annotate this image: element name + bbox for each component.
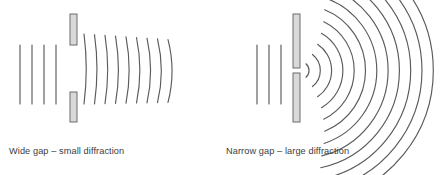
barrier-upper-bar <box>70 14 77 45</box>
barrier-wide-gap <box>70 14 77 122</box>
panel-wide-gap <box>20 14 172 122</box>
caption-wide-gap: Wide gap – small diffraction <box>9 146 124 156</box>
wavefront-arc-2 <box>105 35 108 103</box>
wavefront-arc-4 <box>324 22 354 119</box>
wavefront-arc-5 <box>325 10 366 131</box>
wavefront-arc-1 <box>95 35 97 104</box>
wavefront-arc-1 <box>312 54 320 86</box>
caption-narrow-gap: Narrow gap – large diffraction <box>226 146 349 156</box>
outgoing-wavefronts-left <box>84 34 172 104</box>
barrier-lower-bar <box>293 73 300 122</box>
wavefront-arc-7 <box>158 39 162 103</box>
wavefront-arc-0 <box>84 34 86 104</box>
barrier-narrow-gap <box>293 14 300 122</box>
wavefront-arc-2 <box>318 44 332 97</box>
incoming-plane-waves-left <box>20 45 56 104</box>
wavefront-arc-0 <box>306 64 309 77</box>
incoming-plane-waves-right <box>257 45 281 104</box>
wavefront-arc-6 <box>147 38 151 103</box>
diffraction-figure: Wide gap – small diffraction Narrow gap … <box>0 0 445 175</box>
wavefront-arc-8 <box>168 40 172 103</box>
wavefront-arc-3 <box>116 36 119 103</box>
barrier-lower-bar <box>70 92 77 122</box>
wavefront-arc-4 <box>126 37 129 103</box>
barrier-upper-bar <box>293 14 300 68</box>
wavefront-arc-5 <box>137 38 140 104</box>
